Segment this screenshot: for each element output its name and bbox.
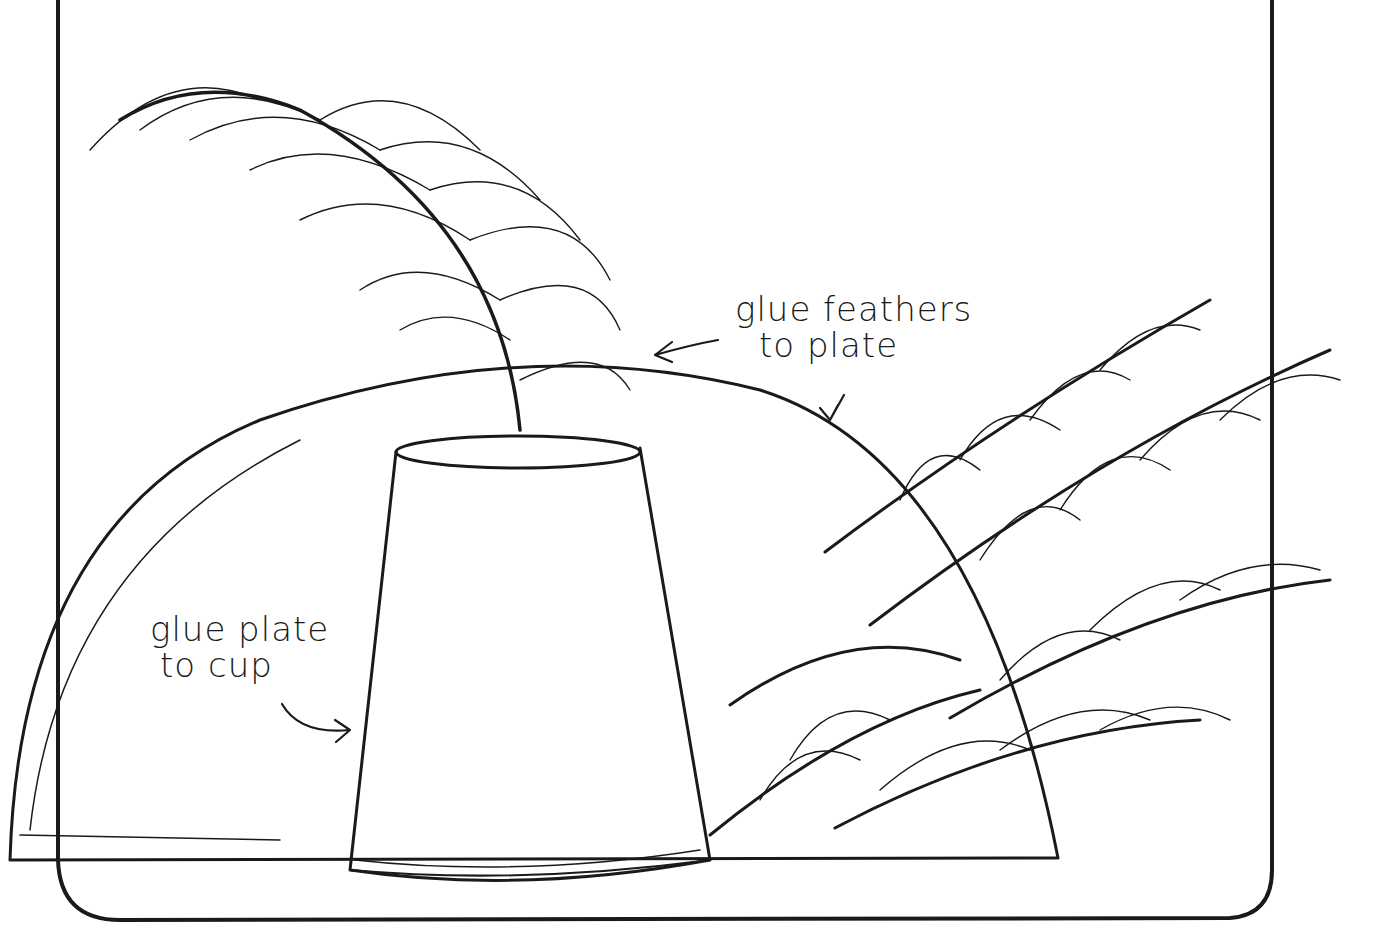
arrow-cup xyxy=(282,704,350,742)
label-glue-plate: glue plate to cup xyxy=(150,612,329,683)
cup xyxy=(350,436,710,880)
side-feathers xyxy=(710,300,1340,835)
arrow-feathers xyxy=(655,340,718,362)
label-line-1: glue plate xyxy=(150,612,329,648)
label-line-2: to cup xyxy=(150,648,329,684)
label-glue-feathers: glue feathers to plate xyxy=(735,292,972,363)
frame xyxy=(58,0,1272,920)
craft-illustration xyxy=(0,0,1382,948)
label-line-1: glue feathers xyxy=(735,292,972,328)
label-line-2: to plate xyxy=(735,328,972,364)
arrow-plate xyxy=(820,395,844,420)
upright-feather xyxy=(90,88,630,430)
